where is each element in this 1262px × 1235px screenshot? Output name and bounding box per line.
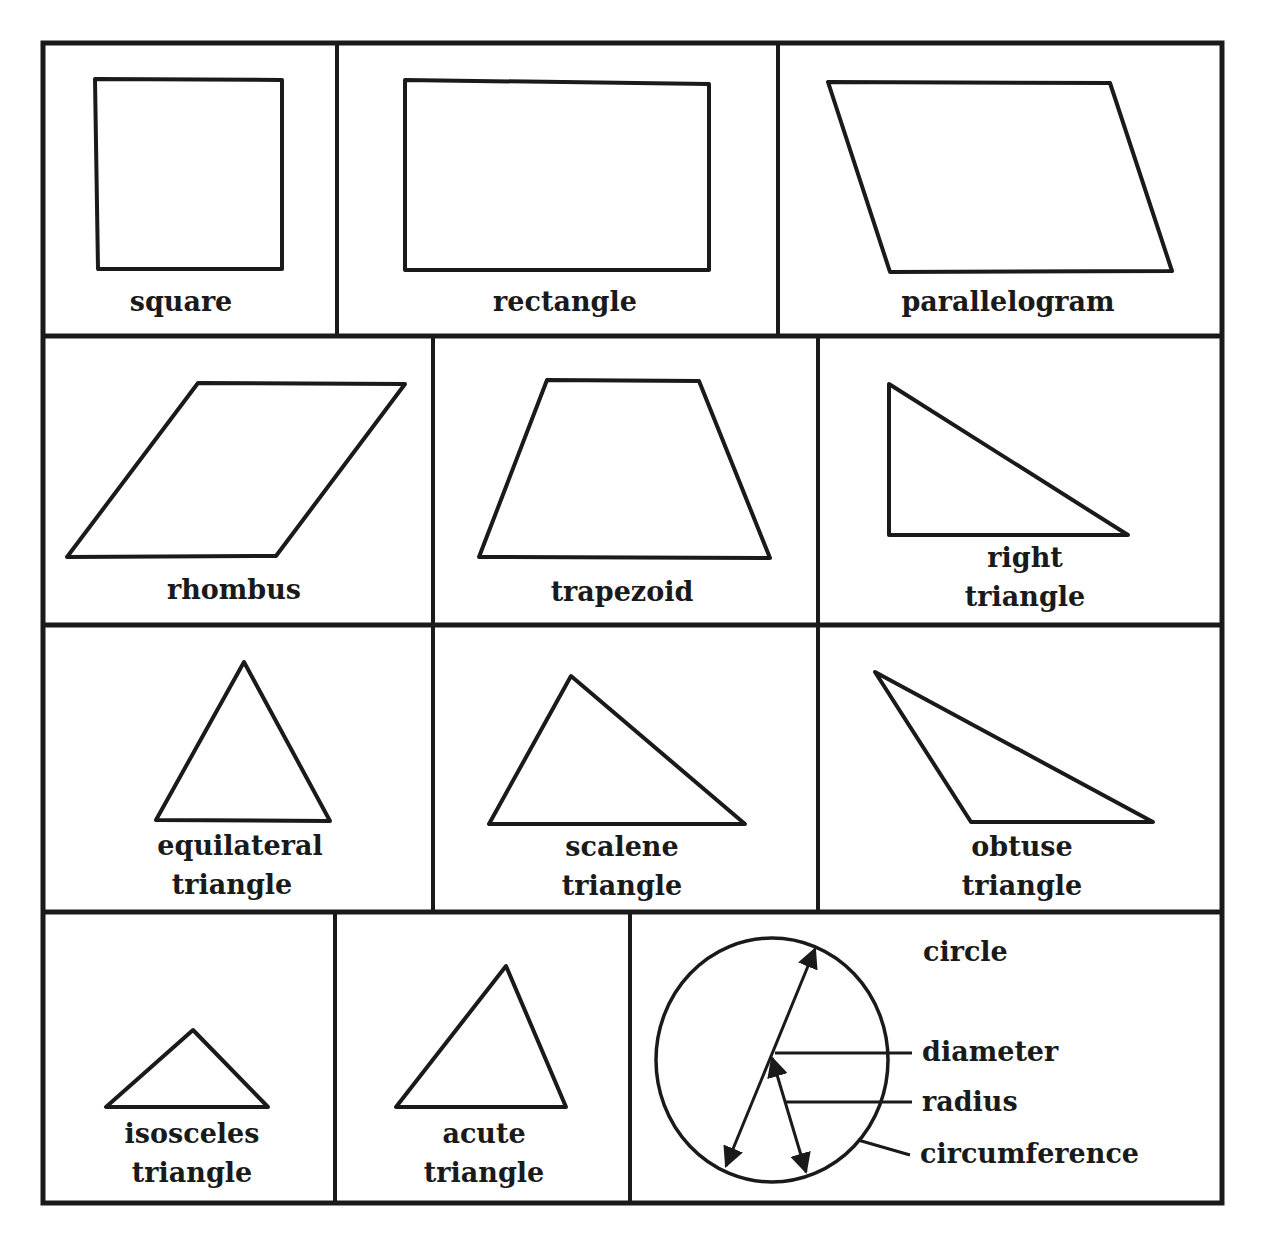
label-rectangle: rectangle <box>493 286 637 317</box>
label-circle: circle <box>923 936 1008 967</box>
shapes-chart-svg: square rectangle parallelogram rhombus t… <box>0 0 1262 1235</box>
label-parallelogram: parallelogram <box>901 286 1114 317</box>
grid-lines <box>43 43 1222 1203</box>
obtuse-triangle-shape <box>875 672 1153 822</box>
label-square: square <box>130 286 233 317</box>
label-obtuse-triangle-line2: triangle <box>962 870 1082 901</box>
cell-circle <box>656 938 912 1182</box>
cell-square <box>95 79 282 269</box>
isosceles-triangle-shape <box>106 1030 268 1107</box>
cell-acute-triangle <box>396 966 566 1107</box>
cell-obtuse-triangle <box>875 672 1153 822</box>
label-scalene-triangle-line1: scalene <box>565 831 678 862</box>
diameter-line <box>726 949 815 1166</box>
rectangle-shape <box>405 80 709 270</box>
scalene-triangle-shape <box>489 676 745 824</box>
trapezoid-shape <box>479 380 770 558</box>
label-equilateral-triangle-line2: triangle <box>172 869 292 900</box>
cell-isosceles-triangle <box>106 1030 268 1107</box>
label-equilateral-triangle-line1: equilateral <box>157 830 322 861</box>
cell-scalene-triangle <box>489 676 745 824</box>
label-circumference: circumference <box>920 1138 1139 1169</box>
radius-line <box>772 1058 806 1172</box>
equilateral-triangle-shape <box>156 662 330 821</box>
right-triangle-shape <box>889 384 1128 535</box>
label-trapezoid: trapezoid <box>551 576 694 607</box>
circle-labels: circle diameter radius circumference <box>920 936 1139 1169</box>
label-obtuse-triangle-line1: obtuse <box>971 831 1072 862</box>
label-right-triangle-line2: triangle <box>965 581 1085 612</box>
acute-triangle-shape <box>396 966 566 1107</box>
cell-rectangle <box>405 80 709 270</box>
label-rhombus: rhombus <box>167 574 301 605</box>
parallelogram-shape <box>828 82 1172 272</box>
label-diameter: diameter <box>922 1036 1059 1067</box>
cell-parallelogram <box>828 82 1172 272</box>
label-radius: radius <box>922 1086 1018 1117</box>
square-shape <box>95 79 282 269</box>
cell-right-triangle <box>889 384 1128 535</box>
shapes-chart: square rectangle parallelogram rhombus t… <box>0 0 1262 1235</box>
label-isosceles-triangle-line2: triangle <box>132 1157 252 1188</box>
cell-trapezoid <box>479 380 770 558</box>
cell-rhombus <box>67 383 405 557</box>
label-acute-triangle-line2: triangle <box>424 1157 544 1188</box>
label-acute-triangle-line1: acute <box>442 1118 525 1149</box>
cell-equilateral-triangle <box>156 662 330 821</box>
label-scalene-triangle-line2: triangle <box>562 870 682 901</box>
label-isosceles-triangle-line1: isosceles <box>125 1118 260 1149</box>
label-right-triangle-line1: right <box>987 542 1063 573</box>
circumference-callout-line <box>858 1140 910 1155</box>
rhombus-shape <box>67 383 405 557</box>
